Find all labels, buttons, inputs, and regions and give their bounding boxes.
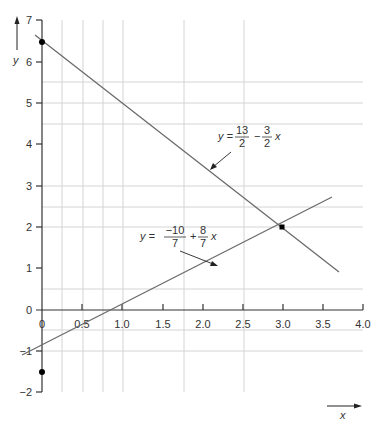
arrow-right-icon	[354, 404, 362, 409]
svg-text:y =: y =	[139, 230, 156, 242]
x-axis-label: x	[339, 409, 346, 421]
y-axis-label-group: y	[12, 16, 20, 66]
y-tick-label: 1	[26, 262, 32, 274]
svg-text:y =: y =	[217, 130, 234, 142]
x-tick-label: 3.0	[275, 318, 290, 330]
vertical-grid	[62, 20, 244, 392]
svg-text:8: 8	[200, 224, 206, 236]
horizontal-grid	[42, 82, 363, 351]
svg-text:7: 7	[172, 237, 178, 249]
point-intercept-1	[39, 39, 45, 45]
x-tick-label: 3.5	[315, 318, 330, 330]
arrow-up-icon	[15, 16, 20, 24]
y-tick-label: −2	[19, 386, 32, 398]
chart: 7 6 5 4 3 2 1 0 −1 −2 0 0.5 1.0 1.5 2.0 …	[0, 0, 382, 432]
x-tick-label: 1.5	[155, 318, 170, 330]
svg-text:2: 2	[239, 137, 245, 149]
x-tick-labels: 0 0.5 1.0 1.5 2.0 2.5 3.0 3.5 4.0	[39, 318, 371, 330]
y-tick-label: 0	[26, 304, 32, 316]
x-tick-label: 0	[39, 318, 45, 330]
point-intercept-2	[39, 369, 45, 375]
y-tick-label: 2	[26, 221, 32, 233]
svg-text:3: 3	[264, 124, 270, 136]
line-decreasing	[35, 35, 339, 272]
x-tick-label: 2.5	[235, 318, 250, 330]
svg-text:+: +	[190, 230, 196, 242]
equation-label-1: y = 13 2 − 3 2 x	[210, 124, 281, 170]
y-tick-labels: 7 6 5 4 3 2 1 0 −1 −2	[19, 14, 32, 398]
svg-text:7: 7	[200, 237, 206, 249]
svg-text:2: 2	[264, 137, 270, 149]
x-tick-label: 2.0	[195, 318, 210, 330]
y-tick-label: 7	[26, 14, 32, 26]
svg-text:13: 13	[236, 124, 248, 136]
line-increasing	[22, 197, 332, 355]
y-tick-label: 5	[26, 97, 32, 109]
x-tick-label: 4.0	[355, 318, 370, 330]
x-tick-label: 1.0	[114, 318, 129, 330]
svg-text:x: x	[274, 130, 281, 142]
svg-text:x: x	[210, 230, 217, 242]
y-axis-label: y	[12, 54, 20, 66]
x-axis	[36, 304, 363, 310]
svg-text:−10: −10	[166, 224, 185, 236]
x-axis-label-group: x	[327, 404, 362, 422]
pointer-arrow-icon	[210, 261, 218, 266]
svg-text:−: −	[254, 130, 260, 142]
y-tick-label: 4	[26, 138, 32, 150]
y-axis	[36, 20, 42, 392]
y-tick-label: 3	[26, 180, 32, 192]
y-tick-label: 6	[26, 56, 32, 68]
equation-label-2: y = −10 7 + 8 7 x	[139, 224, 218, 266]
point-intersection	[280, 225, 285, 230]
